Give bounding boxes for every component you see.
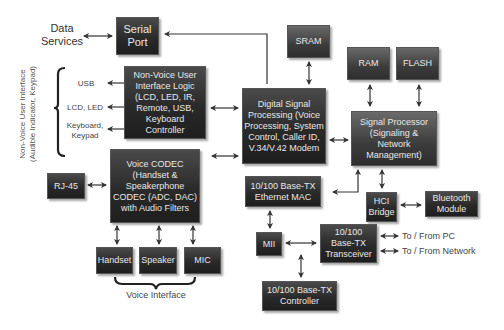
to-from-network-label: To / From Network (402, 246, 492, 256)
sram-block: SRAM (287, 25, 330, 58)
sram-text: SRAM (295, 36, 321, 47)
non-voice-ui-label: Non-Voice User Interface (Audible Indica… (18, 54, 40, 174)
controller-text: 10/100 Base-TX Controller (267, 285, 332, 307)
voice-codec-block: Voice CODEC (Handset & Speakerphone CODE… (110, 149, 200, 223)
transceiver-text: 10/100 Base-TX Transceiver (325, 227, 372, 260)
dsp-text: Digital Signal Processing (Voice Process… (244, 99, 324, 154)
signal-processor-block: Signal Processor (Signaling & Network Ma… (351, 111, 437, 166)
ethernet-mac-text: 10/100 Base-TX Ethernet MAC (250, 181, 315, 203)
mic-text: MIC (194, 255, 211, 266)
ram-text: RAM (359, 58, 379, 69)
voice-codec-text: Voice CODEC (Handset & Speakerphone CODE… (113, 159, 197, 214)
lcd-led-label: LCD, LED (62, 103, 108, 113)
non-voice-logic-text: Non-Voice User Interface Logic (LCD, LED… (125, 70, 205, 136)
mii-block: MII (256, 232, 282, 256)
transceiver-block: 10/100 Base-TX Transceiver (320, 224, 377, 263)
to-from-pc-label: To / From PC (402, 231, 472, 241)
mic-block: MIC (184, 247, 221, 274)
keyboard-keypad-label: Keyboard, Keypad (62, 121, 108, 141)
serial-port-text: Serial Port (123, 23, 151, 49)
hci-bridge-text: HCI Bridge (368, 196, 394, 218)
usb-label: USB (66, 79, 106, 89)
mii-text: MII (263, 239, 276, 250)
speaker-text: Speaker (141, 255, 175, 266)
speaker-block: Speaker (139, 247, 177, 274)
voice-interface-label: Voice Interface (120, 290, 192, 300)
data-services-label: Data Services (37, 22, 87, 48)
rj45-text: RJ-45 (54, 181, 78, 192)
hci-bridge-block: HCI Bridge (366, 192, 397, 222)
non-voice-logic-block: Non-Voice User Interface Logic (LCD, LED… (124, 66, 206, 139)
handset-block: Handset (96, 247, 133, 274)
handset-text: Handset (98, 255, 132, 266)
signal-processor-text: Signal Processor (Signaling & Network Ma… (360, 117, 428, 161)
bluetooth-module-block: Bluetooth Module (425, 191, 478, 217)
ethernet-mac-block: 10/100 Base-TX Ethernet MAC (245, 176, 321, 207)
rj45-block: RJ-45 (47, 173, 85, 199)
controller-block: 10/100 Base-TX Controller (262, 281, 337, 311)
serial-port-block: Serial Port (116, 17, 159, 55)
flash-block: FLASH (396, 47, 439, 80)
dsp-block: Digital Signal Processing (Voice Process… (242, 88, 326, 164)
flash-text: FLASH (403, 58, 432, 69)
ram-block: RAM (347, 47, 390, 80)
bluetooth-module-text: Bluetooth Module (432, 193, 470, 215)
